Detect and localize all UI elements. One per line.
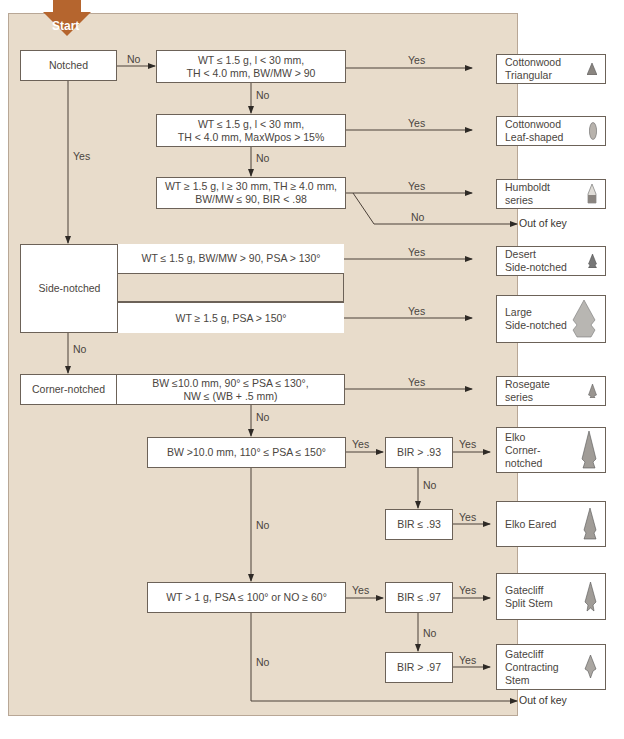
- elko-eared-point-icon: [583, 508, 597, 540]
- cottonwood-leaf-point-icon: [589, 122, 597, 140]
- edge-label-no: No: [73, 343, 86, 355]
- result-humboldt[interactable]: Humboldt series: [496, 179, 606, 209]
- condition-text: BIR > .93: [397, 446, 441, 459]
- gatecliff-split-stem-point-icon: [584, 582, 597, 612]
- result-cottonwood-leaf[interactable]: Cottonwood Leaf-shaped: [496, 116, 606, 146]
- condition-rosegate[interactable]: BW ≤10.0 mm, 90° ≤ PSA ≤ 130°, NW ≤ (WB …: [116, 374, 345, 405]
- edge-label-yes: Yes: [408, 117, 425, 129]
- result-label: Cottonwood Triangular: [505, 56, 561, 82]
- cottonwood-triangular-point-icon: [587, 63, 597, 75]
- edge-label-yes: Yes: [408, 305, 425, 317]
- corner-notched-label: Corner-notched: [32, 383, 105, 396]
- condition-text: BW ≤10.0 mm, 90° ≤ PSA ≤ 130°, NW ≤ (WB …: [152, 377, 308, 403]
- condition-text: BIR > .97: [397, 661, 441, 674]
- elko-corner-notched-point-icon: [581, 431, 597, 469]
- rosegate-point-icon: [588, 384, 597, 398]
- edge-label-no: No: [256, 656, 269, 668]
- condition-bir-gatecliff-split[interactable]: BIR ≤ .97: [385, 582, 453, 613]
- condition-text: BIR ≤ .97: [397, 591, 441, 604]
- condition-large-side-notched[interactable]: WT ≥ 1.5 g, PSA > 150°: [117, 302, 344, 333]
- condition-cottonwood-leaf[interactable]: WT ≤ 1.5 g, l < 30 mm, TH < 4.0 mm, MaxW…: [156, 114, 346, 147]
- condition-bir-elko-corner[interactable]: BIR > .93: [385, 437, 453, 468]
- result-rosegate[interactable]: Rosegate series: [496, 376, 606, 406]
- result-label: Cottonwood Leaf-shaped: [505, 118, 563, 144]
- edge-label-no: No: [256, 519, 269, 531]
- large-side-notched-point-icon: [571, 300, 597, 338]
- result-gatecliff-split-stem[interactable]: Gatecliff Split Stem: [496, 573, 606, 620]
- condition-cottonwood-triangular[interactable]: WT ≤ 1.5 g, l < 30 mm, TH < 4.0 mm, BW/M…: [156, 50, 346, 83]
- desert-side-notched-point-icon: [588, 254, 597, 268]
- result-label: Elko Corner- notched: [505, 431, 542, 470]
- condition-bir-elko-eared[interactable]: BIR ≤ .93: [385, 509, 453, 540]
- condition-text: BIR ≤ .93: [397, 518, 441, 531]
- edge-label-yes: Yes: [408, 180, 425, 192]
- condition-text: WT ≥ 1.5 g, l ≥ 30 mm, TH ≥ 4.0 mm, BW/M…: [165, 180, 337, 206]
- result-label: Humboldt series: [505, 181, 550, 207]
- condition-text: WT > 1 g, PSA ≤ 100° or NO ≥ 60°: [166, 591, 327, 604]
- result-label: Desert Side-notched: [505, 248, 567, 274]
- condition-gatecliff[interactable]: WT > 1 g, PSA ≤ 100° or NO ≥ 60°: [147, 582, 346, 613]
- side-notched-label: Side-notched: [21, 282, 118, 295]
- result-desert-side-notched[interactable]: Desert Side-notched: [496, 246, 606, 276]
- result-label: Elko Eared: [505, 518, 556, 531]
- notched-node[interactable]: Notched: [20, 50, 117, 81]
- condition-text: WT ≤ 1.5 g, l < 30 mm, TH < 4.0 mm, MaxW…: [178, 118, 324, 144]
- edge-label-yes: Yes: [459, 511, 476, 523]
- start-label: Start: [52, 19, 79, 33]
- condition-text: BW >10.0 mm, 110° ≤ PSA ≤ 150°: [167, 446, 326, 459]
- condition-humboldt[interactable]: WT ≥ 1.5 g, l ≥ 30 mm, TH ≥ 4.0 mm, BW/M…: [156, 177, 346, 209]
- condition-text: WT ≤ 1.5 g, BW/MW > 90, PSA > 130°: [141, 252, 320, 265]
- edge-label-yes: Yes: [459, 654, 476, 666]
- edge-label-no: No: [256, 152, 269, 164]
- edge-label-yes: Yes: [73, 150, 90, 162]
- result-label: Gatecliff Split Stem: [505, 584, 553, 610]
- humboldt-point-icon: [587, 184, 597, 204]
- condition-bir-gatecliff-contracting[interactable]: BIR > .97: [385, 652, 453, 683]
- edge-label-no: No: [256, 89, 269, 101]
- side-notched-gap: [117, 273, 344, 302]
- flow-connectors: [0, 0, 624, 739]
- result-label: Large Side-notched: [505, 306, 567, 332]
- edge-label-yes: Yes: [352, 584, 369, 596]
- condition-text: WT ≤ 1.5 g, l < 30 mm, TH < 4.0 mm, BW/M…: [187, 54, 316, 80]
- out-of-key-label-2: Out of key: [519, 694, 567, 706]
- edge-label-yes: Yes: [408, 376, 425, 388]
- edge-label-no: No: [423, 479, 436, 491]
- condition-text: WT ≥ 1.5 g, PSA > 150°: [175, 312, 286, 325]
- condition-elko[interactable]: BW >10.0 mm, 110° ≤ PSA ≤ 150°: [147, 437, 346, 468]
- edge-label-no: No: [127, 53, 140, 65]
- edge-label-yes: Yes: [408, 54, 425, 66]
- edge-label-no: No: [423, 627, 436, 639]
- notched-label: Notched: [49, 59, 88, 72]
- result-cottonwood-triangular[interactable]: Cottonwood Triangular: [496, 54, 606, 84]
- edge-label-yes: Yes: [352, 438, 369, 450]
- corner-notched-node[interactable]: Corner-notched: [20, 374, 117, 405]
- gatecliff-contracting-stem-point-icon: [584, 655, 597, 679]
- result-large-side-notched[interactable]: Large Side-notched: [496, 295, 606, 343]
- condition-desert-side-notched[interactable]: WT ≤ 1.5 g, BW/MW > 90, PSA > 130°: [117, 244, 344, 274]
- result-elko-corner-notched[interactable]: Elko Corner- notched: [496, 427, 606, 473]
- edge-label-yes: Yes: [459, 584, 476, 596]
- edge-label-yes: Yes: [408, 246, 425, 258]
- out-of-key-label-1: Out of key: [519, 217, 567, 229]
- result-elko-eared[interactable]: Elko Eared: [496, 501, 606, 547]
- edge-label-no: No: [411, 211, 424, 223]
- edge-label-yes: Yes: [459, 438, 476, 450]
- result-gatecliff-contracting-stem[interactable]: Gatecliff Contracting Stem: [496, 644, 606, 690]
- result-label: Rosegate series: [505, 378, 550, 404]
- result-label: Gatecliff Contracting Stem: [505, 648, 559, 687]
- edge-label-no: No: [256, 411, 269, 423]
